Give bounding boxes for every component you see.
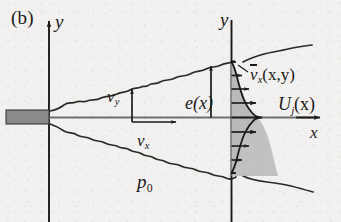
y-axis-right-label: y xyxy=(220,10,228,29)
x-axis-label: x xyxy=(310,124,318,141)
mean-velocity-subscript: x xyxy=(258,74,263,85)
centerline-velocity-subscript: j xyxy=(291,104,294,116)
jet-flow-figure: (b) y y x vy vx e(x) vx(x,y) Uj(x) p0 xyxy=(0,0,341,222)
ambient-pressure-symbol: p xyxy=(137,171,147,192)
lower-jet-boundary xyxy=(50,124,313,192)
mean-velocity-profile-label: vx(x,y) xyxy=(250,66,295,83)
y-axis-left-label: y xyxy=(55,12,63,31)
velocity-x-symbol: v xyxy=(137,131,145,150)
profile-label-leader xyxy=(238,65,248,72)
velocity-y-subscript: y xyxy=(115,96,120,107)
velocity-x-subscript: x xyxy=(145,140,150,151)
velocity-x-label: vx xyxy=(137,132,149,149)
centerline-velocity-symbol: U xyxy=(278,94,291,114)
centerline-velocity-label: Uj(x) xyxy=(278,95,315,113)
mean-velocity-arguments: (x,y) xyxy=(262,65,295,84)
centerline-velocity-arguments: (x) xyxy=(294,94,315,114)
velocity-y-symbol: v xyxy=(107,87,115,106)
ambient-pressure-label: p0 xyxy=(137,172,152,191)
mean-velocity-overbar-symbol: v xyxy=(250,66,258,83)
ambient-pressure-subscript: 0 xyxy=(147,182,153,195)
nozzle-slot xyxy=(6,110,49,124)
jet-halfwidth-label: e(x) xyxy=(185,94,213,112)
panel-letter-label: (b) xyxy=(11,8,34,27)
velocity-y-label: vy xyxy=(107,88,119,105)
